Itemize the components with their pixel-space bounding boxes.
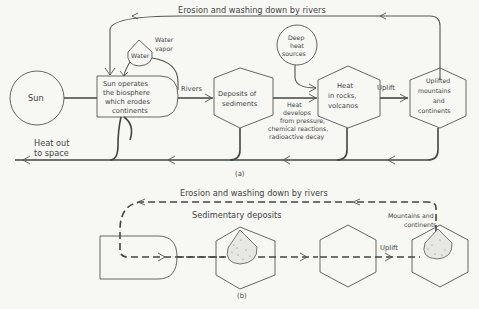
- heat-out-flow: [15, 128, 438, 160]
- water-label: Water: [131, 52, 150, 59]
- sun-label: Sun: [28, 93, 44, 103]
- mountains-label: Mountains and continents: [388, 212, 437, 228]
- erosion-label-a: Erosion and washing down by rivers: [178, 5, 326, 15]
- heat-develops-label: Heat develops from pressure, chemical re…: [268, 101, 330, 141]
- diagram-b: Erosion and washing down by rivers Sedim…: [100, 188, 468, 300]
- diagram-a: Erosion and washing down by rivers Sun W…: [10, 5, 466, 178]
- erosion-loop-a: [181, 16, 440, 80]
- uplift-label-a: Uplift: [377, 84, 395, 92]
- mountain-deposit: [424, 229, 452, 259]
- empty-hexagon: [320, 225, 376, 287]
- rock-cycle-diagram: Erosion and washing down by rivers Sun W…: [0, 0, 479, 309]
- deep-heat-label: Deep heat sources: [282, 34, 306, 57]
- caption-a: (a): [235, 170, 245, 178]
- sedimentary-label: Sedimentary deposits: [192, 210, 281, 220]
- deposits-label: Deposits of sediments: [218, 90, 258, 108]
- heat-out-label: Heat out to space: [34, 138, 72, 158]
- water-vapor-label: Watervapor: [155, 36, 174, 53]
- biosphere-label: Sun operates the biosphere which erodes …: [103, 80, 152, 115]
- caption-b: (b): [237, 292, 247, 300]
- rivers-label: Rivers: [181, 85, 203, 93]
- sediment-deposit: [227, 230, 257, 264]
- uplifted-label: Uplifted mountains and continents: [418, 77, 453, 114]
- heat-rocks-label: Heat in rocks, volcanos: [328, 82, 359, 110]
- erosion-label-b: Erosion and washing down by rivers: [180, 188, 328, 198]
- uplift-label-b: Uplift: [380, 244, 398, 252]
- deposits-node: [214, 68, 273, 128]
